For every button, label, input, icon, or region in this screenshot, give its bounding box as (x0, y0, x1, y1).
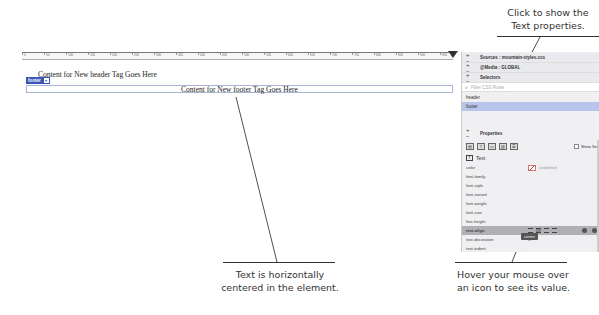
separator: : (524, 201, 528, 206)
selector-item-footer[interactable]: footer (462, 102, 599, 111)
ruler-tick-label: 950 (442, 53, 447, 57)
property-value: undefined (539, 165, 557, 170)
text-section-header: T Text (466, 155, 485, 161)
ruler-tick (330, 53, 331, 55)
ruler-tick (176, 53, 177, 55)
ruler-tick (396, 53, 397, 55)
properties-label: Properties (480, 131, 502, 136)
callout-rule (497, 36, 599, 37)
property-row-font-family[interactable]: font-family : (462, 172, 599, 181)
filter-placeholder: Filter CSS Rules (471, 85, 504, 90)
ruler-tick-label: 200 (112, 53, 117, 57)
show-set-label: Show Set (581, 144, 598, 149)
footer-element[interactable]: Content for New footer Tag Goes Here (26, 85, 453, 93)
property-name: text-align (466, 228, 524, 233)
align-right-icon[interactable] (544, 228, 549, 233)
tag-badge-label[interactable]: footer (26, 77, 43, 84)
property-name: text-indent (466, 246, 524, 251)
filter-css-rules-input[interactable]: ⌕ Filter CSS Rules (462, 83, 599, 92)
text-icon: T (466, 155, 473, 161)
add-remove-icon[interactable]: + − (462, 72, 480, 84)
callout-hover: Hover your mouse over an icon to see its… (447, 268, 577, 294)
align-justify-icon[interactable] (552, 228, 557, 233)
ruler-tick (132, 53, 133, 55)
ruler-tick (418, 53, 419, 55)
separator: : (524, 246, 528, 251)
callout-line: an icon to see its value. (457, 281, 577, 294)
ruler-tick-label: 500 (244, 53, 249, 57)
ruler-tick-label: 650 (310, 53, 315, 57)
property-name: font-variant (466, 192, 524, 197)
text-section-label: Text (476, 155, 485, 161)
property-name: color (466, 165, 524, 170)
property-row-font-weight[interactable]: font-weight : (462, 199, 599, 208)
callout-line: Click to show the (493, 6, 599, 19)
media-row[interactable]: + − @Media : GLOBAL (462, 63, 599, 73)
property-name: font-size (466, 210, 524, 215)
properties-category-toolbar: ▤ T ▭ ▥ ☰ Show Set (462, 141, 599, 151)
element-tag-badge[interactable]: footer ▾ (26, 77, 50, 84)
separator: : (524, 183, 528, 188)
ruler-tick-label: 550 (266, 53, 271, 57)
ruler-tick-label: 700 (332, 53, 337, 57)
ruler-tick-label: 800 (376, 53, 381, 57)
disable-property-icon[interactable] (582, 228, 587, 233)
show-set-toggle[interactable]: Show Set (574, 144, 599, 149)
more-icon[interactable]: ☰ (510, 143, 518, 150)
tag-badge-menu-icon[interactable]: ▾ (43, 77, 50, 84)
callout-line: centered in the element. (215, 281, 345, 294)
property-row-line-height[interactable]: line-height : (462, 217, 599, 226)
callout-text-properties: Click to show the Text properties. (493, 6, 599, 32)
property-row-text-indent[interactable]: text-indent : (462, 244, 599, 253)
selectors-row[interactable]: + − Selectors (462, 73, 599, 83)
ruler-marker-icon[interactable] (448, 51, 458, 58)
sources-label: Sources : mountain-styles.css (480, 55, 545, 60)
separator: : (524, 210, 528, 215)
ruler-tick (154, 53, 155, 55)
layout-icon[interactable]: ▤ (466, 143, 474, 150)
ruler-tick (110, 53, 111, 55)
ruler-tick-label: 0 (24, 53, 26, 57)
color-picker-icon[interactable] (528, 165, 536, 171)
callout-rule (455, 262, 567, 263)
separator: : (524, 219, 528, 224)
properties-row: + − Properties (462, 128, 599, 138)
media-label: @Media : GLOBAL (480, 65, 520, 70)
property-name: font-style (466, 183, 524, 188)
header-content[interactable]: Content for New header Tag Goes Here (38, 70, 157, 79)
selectors-label: Selectors (480, 75, 500, 80)
ruler-tick-label: 750 (354, 53, 359, 57)
background-icon[interactable]: ▥ (499, 143, 507, 150)
ruler-tick (308, 53, 309, 55)
ruler-tick (440, 53, 441, 55)
property-name: font-weight (466, 201, 524, 206)
property-row-font-variant[interactable]: font-variant : (462, 190, 599, 199)
ruler-tick-label: 900 (420, 53, 425, 57)
ruler-tick (220, 53, 221, 55)
ruler-tick-label: 150 (90, 53, 95, 57)
ruler-tick (352, 53, 353, 55)
search-icon: ⌕ (465, 84, 468, 91)
ruler-tick-label: 250 (134, 53, 139, 57)
callout-rule (223, 262, 335, 263)
callout-line: Text is horizontally (215, 268, 345, 281)
selector-item-header[interactable]: header (462, 93, 599, 102)
text-icon[interactable]: T (477, 143, 485, 150)
ruler-tick (88, 53, 89, 55)
show-set-checkbox[interactable] (574, 144, 579, 149)
ruler-tick (22, 53, 23, 55)
horizontal-ruler: 0501001502002503003504004505005506006507… (22, 52, 453, 60)
ruler-tick-label: 450 (222, 53, 227, 57)
ruler-tick-label: 100 (68, 53, 73, 57)
property-row-color[interactable]: color : undefined (462, 163, 599, 172)
property-row-font-size[interactable]: font-size : (462, 208, 599, 217)
add-remove-icon[interactable]: + − (462, 127, 480, 139)
ruler-tick (242, 53, 243, 55)
ruler-tick-label: 50 (46, 53, 49, 57)
border-icon[interactable]: ▭ (488, 143, 496, 150)
property-name: text-decoration (466, 237, 524, 242)
sources-row[interactable]: + − Sources : mountain-styles.css (462, 53, 599, 63)
separator: : (524, 192, 528, 197)
ruler-tick-label: 350 (178, 53, 183, 57)
property-row-font-style[interactable]: font-style : (462, 181, 599, 190)
